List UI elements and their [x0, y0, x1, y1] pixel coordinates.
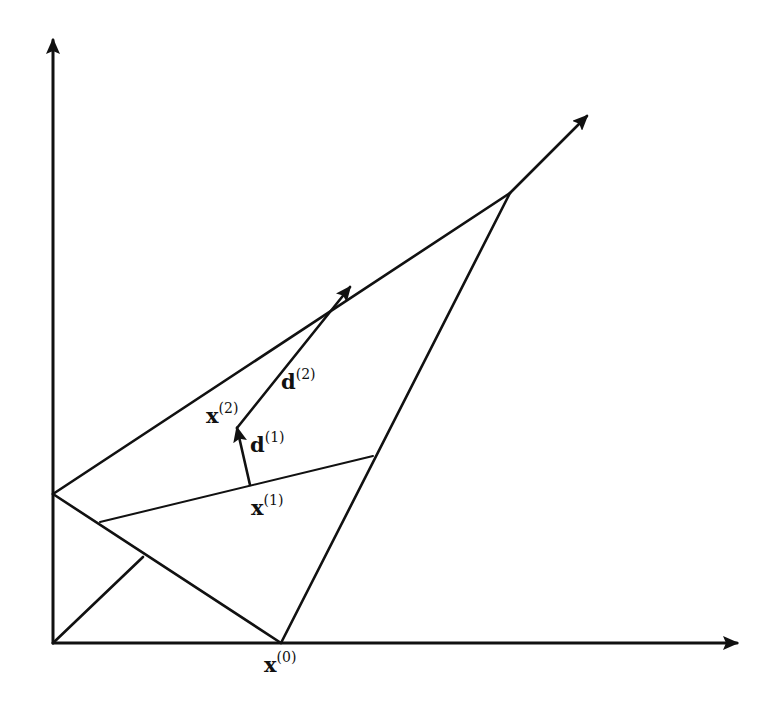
label-x0: x(0)	[264, 652, 296, 675]
edge-yaxis-to-x0	[53, 494, 281, 643]
axes	[53, 40, 737, 643]
ray-apex-extension	[510, 116, 587, 193]
diagonal-from-origin	[53, 557, 143, 643]
direction-d1	[237, 428, 250, 485]
diagram-canvas	[0, 0, 779, 703]
direction-d2	[237, 287, 350, 428]
optimization-diagram: x(0) x(1) x(2) d(1) d(2)	[0, 0, 779, 703]
label-d1: d(1)	[250, 432, 285, 455]
polytope-edges	[53, 116, 587, 643]
edge-x0-to-apex	[281, 193, 510, 643]
label-x2: x(2)	[206, 403, 238, 426]
line-through-x1	[100, 456, 373, 522]
label-x1: x(1)	[251, 495, 283, 518]
label-d2: d(2)	[281, 369, 316, 392]
